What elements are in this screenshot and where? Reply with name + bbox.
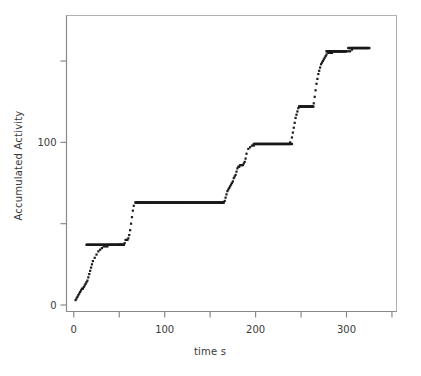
- data-point: [133, 205, 135, 207]
- data-point: [92, 260, 94, 262]
- plot-frame: [67, 16, 397, 312]
- data-point: [244, 158, 246, 160]
- data-point: [122, 244, 124, 246]
- tick-label: 0: [50, 300, 56, 311]
- data-point: [315, 83, 317, 85]
- chart-figure: 0100 0100200300 Accumulated Activity tim…: [0, 0, 421, 376]
- data-point: [244, 161, 246, 163]
- data-point: [224, 197, 226, 199]
- tick-label: 100: [37, 137, 56, 148]
- y-axis-tick-labels: 0100: [37, 137, 56, 311]
- data-point: [131, 216, 133, 218]
- data-point: [94, 257, 96, 259]
- tick-label: 300: [337, 324, 356, 335]
- data-point: [86, 279, 88, 281]
- data-point: [95, 253, 97, 255]
- data-point: [225, 193, 227, 195]
- data-point: [317, 73, 319, 75]
- data-point: [314, 89, 316, 91]
- data-point: [292, 131, 294, 133]
- data-point: [89, 270, 91, 272]
- data-point: [232, 180, 234, 182]
- tick-label: 100: [155, 324, 174, 335]
- data-point: [90, 266, 92, 268]
- tick-label: 0: [71, 324, 77, 335]
- data-point: [345, 50, 347, 52]
- data-point: [127, 237, 129, 239]
- data-point: [291, 143, 293, 145]
- data-point: [88, 273, 90, 275]
- y-axis-title: Accumulated Activity: [13, 86, 24, 246]
- data-point: [132, 210, 134, 212]
- data-point: [293, 127, 295, 129]
- tick-label: 200: [246, 324, 265, 335]
- scatter-plot: 0100 0100200300: [0, 0, 421, 376]
- x-axis-title: time s: [160, 346, 260, 357]
- data-point: [234, 174, 236, 176]
- data-point: [222, 201, 224, 203]
- data-point: [295, 114, 297, 116]
- data-point: [312, 105, 314, 107]
- data-point: [368, 47, 370, 49]
- data-point: [129, 229, 131, 231]
- data-point: [316, 78, 318, 80]
- x-axis-tick-labels: 0100200300: [71, 324, 356, 335]
- data-point: [245, 153, 247, 155]
- y-axis-ticks: [61, 61, 67, 305]
- data-point: [294, 122, 296, 124]
- data-point: [130, 223, 132, 225]
- data-point: [314, 96, 316, 98]
- data-point: [235, 171, 237, 173]
- data-point: [318, 70, 320, 72]
- x-axis-ticks: [74, 312, 392, 318]
- data-point-markers: [74, 47, 370, 301]
- data-point: [91, 263, 93, 265]
- data-point: [87, 276, 89, 278]
- data-point: [313, 102, 315, 104]
- data-point: [294, 117, 296, 119]
- data-point: [319, 66, 321, 68]
- data-point: [296, 110, 298, 112]
- data-point: [128, 234, 130, 236]
- data-point: [291, 136, 293, 138]
